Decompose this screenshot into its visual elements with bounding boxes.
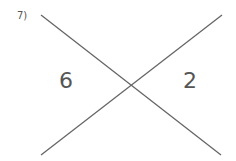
left-value: 6 — [59, 68, 73, 93]
x-diagram — [0, 0, 236, 161]
right-value: 2 — [183, 68, 197, 93]
